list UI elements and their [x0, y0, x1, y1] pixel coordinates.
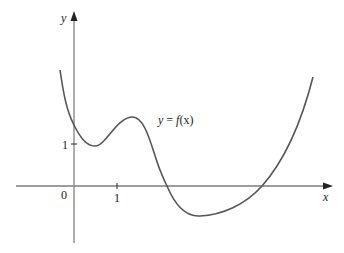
x-axis-arrow-icon: [323, 183, 333, 190]
curve-label: y = f(x): [157, 113, 193, 127]
origin-label: 0: [61, 188, 67, 202]
y-axis-arrow-icon: [71, 11, 78, 21]
function-curve: [60, 70, 313, 216]
y-axis-label: y: [60, 11, 67, 25]
function-graph: y x 0 1 1 y = f(x): [0, 0, 344, 253]
y-tick-label-1: 1: [62, 138, 68, 152]
x-axis-label: x: [322, 190, 329, 204]
x-tick-label-1: 1: [114, 191, 120, 205]
